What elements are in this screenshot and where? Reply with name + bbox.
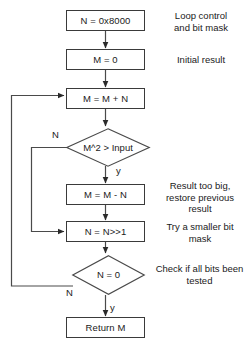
annotation-restore-previous: Result too big,restore previousresult — [152, 180, 248, 215]
annotation-loop-control: Loop controland bit mask — [155, 10, 247, 33]
node-subtract[interactable]: M = M - N — [66, 184, 145, 205]
branch-label-square-no: N — [52, 130, 59, 140]
annotation-initial-result: Initial result — [155, 54, 247, 66]
node-test-zero-label: N = 0 — [97, 270, 120, 280]
annotation-smaller-mask: Try a smaller bitmask — [152, 221, 248, 244]
branch-label-square-yes: y — [116, 166, 121, 176]
node-init-mask[interactable]: N = 0x8000 — [66, 10, 145, 31]
branch-label-zero-yes: y — [110, 303, 115, 313]
node-test-square-label: M^2 > Input — [83, 143, 133, 153]
node-return[interactable]: Return M — [66, 317, 145, 338]
node-init-result[interactable]: M = 0 — [66, 49, 145, 70]
node-init-mask-label: N = 0x8000 — [81, 16, 131, 26]
node-add-label: M = M + N — [83, 94, 128, 104]
node-add[interactable]: M = M + N — [66, 88, 145, 109]
node-return-label: Return M — [86, 323, 126, 333]
wire-test-zero-no-to-add — [12, 96, 74, 287]
flowchart-canvas: N = 0x8000 M = 0 M = M + N M = M - N N =… — [0, 0, 251, 348]
wire-test-square-no-to-shift — [32, 148, 68, 232]
node-test-zero[interactable]: N = 0 — [72, 255, 145, 295]
node-init-result-label: M = 0 — [93, 55, 118, 65]
branch-label-zero-no: N — [66, 288, 73, 298]
node-shift[interactable]: N = N>>1 — [66, 221, 145, 242]
node-shift-label: N = N>>1 — [85, 227, 127, 237]
annotation-check-bits: Check if all bits beentested — [149, 263, 250, 286]
node-subtract-label: M = M - N — [84, 190, 127, 200]
node-test-square[interactable]: M^2 > Input — [66, 128, 150, 167]
